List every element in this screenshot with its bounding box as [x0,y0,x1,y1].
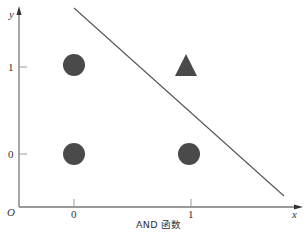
diagram-caption: AND 函数 [136,217,182,231]
origin-label: O [7,206,15,218]
and-function-diagram: y 1 0 O 0 1 x x [0,0,307,239]
x-axis-end-label: x [291,208,297,220]
y-tick-label-1: 1 [8,61,14,73]
decision-boundary-line [74,8,284,196]
y-tick-label-0: 0 [8,148,14,160]
y-axis-label: y [8,8,14,20]
point-1-0-circle [178,143,200,165]
point-1-1-triangle [175,54,197,76]
x-tick-label-1: 1 [188,208,194,220]
x-tick-label-0: 0 [71,208,77,220]
point-0-1-circle [63,54,85,76]
y-axis-arrow-icon [17,6,22,15]
point-0-0-circle [63,143,85,165]
